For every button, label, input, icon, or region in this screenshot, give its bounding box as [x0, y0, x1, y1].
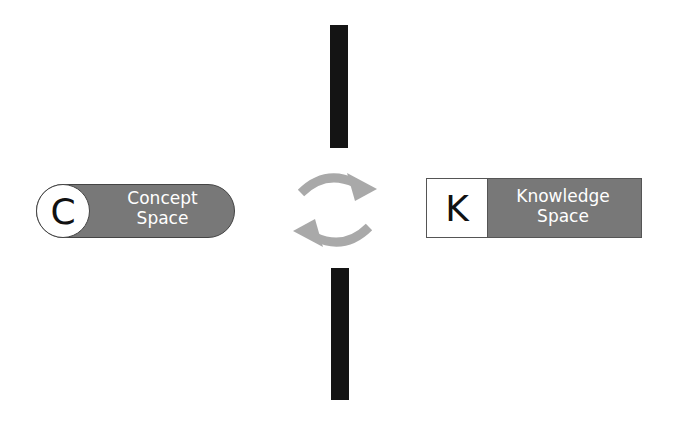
cycle-arrows-icon — [285, 165, 385, 255]
knowledge-space-label: Knowledge Space — [489, 186, 637, 226]
concept-label-line1: Concept — [101, 188, 224, 208]
knowledge-space-node: K Knowledge Space — [426, 178, 642, 238]
knowledge-letter: K — [427, 179, 488, 237]
concept-space-node: C Concept Space — [36, 184, 235, 238]
concept-label-line2: Space — [101, 208, 224, 228]
concept-letter: C — [36, 184, 90, 238]
concept-space-label: Concept Space — [101, 188, 224, 228]
divider-bar-top — [330, 25, 348, 148]
knowledge-label-line2: Space — [489, 206, 637, 226]
knowledge-label-line1: Knowledge — [489, 186, 637, 206]
divider-bar-bottom — [331, 268, 349, 400]
